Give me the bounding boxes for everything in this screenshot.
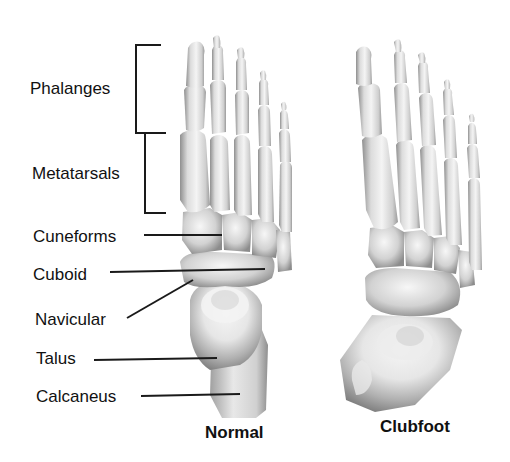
label-metatarsals: Metatarsals (32, 165, 120, 182)
navicular-pointer (127, 280, 193, 318)
label-navicular: Navicular (35, 311, 106, 328)
talus-pointer (94, 358, 217, 360)
normal-foot-skeleton (180, 35, 292, 418)
foot-anatomy-diagram: Phalanges Metatarsals Cuneforms Cuboid N… (0, 0, 510, 462)
metatarsals-bracket (145, 133, 166, 213)
caption-clubfoot: Clubfoot (380, 418, 450, 435)
label-calcaneus: Calcaneus (36, 388, 116, 405)
clubfoot-skeleton (340, 39, 482, 412)
label-cuboid: Cuboid (33, 266, 87, 283)
label-phalanges: Phalanges (30, 80, 110, 97)
phalanges-bracket (136, 45, 166, 133)
label-cuneiforms: Cuneforms (33, 228, 116, 245)
caption-normal: Normal (205, 424, 264, 441)
label-talus: Talus (36, 350, 76, 367)
